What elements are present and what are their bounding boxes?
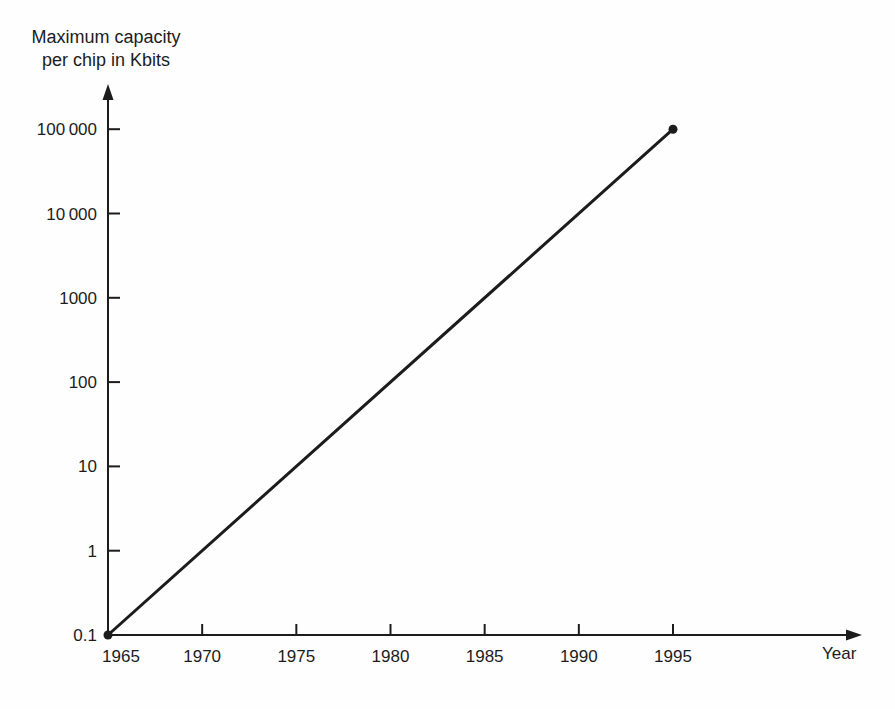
chip-capacity-growth-chart: 100 00010 00010001001010.119651970197519… (0, 0, 895, 709)
data-line (108, 129, 673, 635)
x-axis-title: Year (822, 644, 856, 664)
y-tick-label: 10 000 (46, 205, 97, 224)
x-tick-label: 1990 (560, 647, 598, 666)
y-tick-label: 1 (88, 542, 97, 561)
y-tick-label: 100 (69, 373, 97, 392)
data-point-end (669, 125, 678, 134)
x-tick-label: 1985 (466, 647, 504, 666)
y-tick-label: 0.1 (73, 626, 97, 645)
y-tick-label: 1000 (59, 289, 97, 308)
y-tick-label: 100 000 (37, 120, 97, 139)
line-chart-canvas: 100 00010 00010001001010.119651970197519… (0, 0, 895, 709)
y-axis-arrow-icon (103, 84, 114, 100)
data-point-start (104, 631, 113, 640)
x-tick-label: 1980 (372, 647, 410, 666)
x-axis-arrow-icon (846, 630, 862, 641)
x-tick-label: 1965 (102, 647, 140, 666)
x-tick-label: 1975 (277, 647, 315, 666)
y-axis-title-line-2: per chip in Kbits (20, 49, 192, 72)
y-axis-title: Maximum capacity per chip in Kbits (20, 26, 192, 72)
x-tick-label: 1970 (183, 647, 221, 666)
y-axis-title-line-1: Maximum capacity (20, 26, 192, 49)
x-tick-label: 1995 (654, 647, 692, 666)
y-tick-label: 10 (78, 457, 97, 476)
